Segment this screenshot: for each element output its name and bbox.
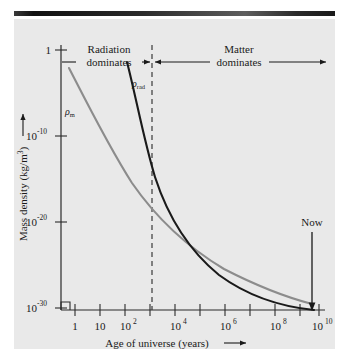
x-tick-label-10: 10 <box>95 320 107 332</box>
x-tick-exp-1e2: 2 <box>133 317 137 326</box>
radiation-dominates-line1: Radiation <box>88 43 131 55</box>
x-tick-exp-1e4: 4 <box>183 317 187 326</box>
x-tick-label-1e2: 10 <box>120 320 132 332</box>
annotation-radiation-dominates: Radiation dominates <box>62 43 150 68</box>
curve-label-matter: ρm <box>64 106 75 118</box>
arrow-left-icon <box>155 59 161 64</box>
arrow-right-icon <box>240 340 246 345</box>
rho-m-subscript: m <box>70 111 75 118</box>
now-label: Now <box>301 216 322 228</box>
arrow-right-icon <box>144 59 150 64</box>
y-tick-label-1e-30: 10 <box>26 302 38 314</box>
x-axis-title: Age of universe (years) <box>105 337 209 349</box>
axis-break-notch-icon <box>61 302 70 310</box>
radiation-dominates-line2: dominates <box>86 56 131 68</box>
y-axis-tick-labels: 1 10 -10 10 -20 10 -30 <box>26 44 51 314</box>
svg-text:Mass density (kg/m3): Mass density (kg/m3) <box>16 147 30 242</box>
curve-radiation-density <box>127 62 314 310</box>
svg-text:ρrad: ρrad <box>131 78 146 90</box>
x-tick-exp-1e10: 10 <box>325 317 333 326</box>
y-tick-exp-1e-20: -20 <box>37 213 47 222</box>
x-tick-exp-1e6: 6 <box>233 317 237 326</box>
y-axis-title-close: ) <box>17 147 30 151</box>
x-tick-label-1e4: 10 <box>170 320 182 332</box>
x-axis-title-group: Age of universe (years) <box>105 337 246 349</box>
x-tick-label-1e6: 10 <box>220 320 232 332</box>
rho-rad-subscript: rad <box>137 83 146 90</box>
curve-matter-density <box>69 68 312 304</box>
y-tick-label-1: 1 <box>46 44 52 56</box>
arrow-up-icon <box>20 114 25 120</box>
x-axis-tick-labels: 1 10 10 2 10 4 10 6 10 8 10 10 <box>72 317 333 332</box>
matter-dominates-line2: dominates <box>216 56 261 68</box>
y-axis-title: Mass density (kg/m <box>17 154 30 241</box>
x-tick-exp-1e8: 8 <box>283 317 287 326</box>
figure-panel: 1 10 -10 10 -20 10 -30 1 10 10 <box>14 19 335 349</box>
annotation-now-marker: Now <box>301 216 322 311</box>
annotation-matter-dominates: Matter dominates <box>155 43 326 68</box>
y-tick-exp-1e-30: -30 <box>37 299 47 308</box>
cosmology-density-chart: 1 10 -10 10 -20 10 -30 1 10 10 <box>14 19 335 349</box>
curve-label-radiation: ρrad <box>131 78 146 90</box>
arrow-right-icon <box>320 59 326 64</box>
y-tick-label-1e-10: 10 <box>26 130 38 142</box>
matter-dominates-line1: Matter <box>224 43 254 55</box>
y-tick-exp-1e-10: -10 <box>37 127 47 136</box>
top-rule-bar <box>14 11 335 16</box>
svg-text:ρm: ρm <box>64 106 75 118</box>
x-tick-label-1e10: 10 <box>312 320 324 332</box>
x-tick-label-1: 1 <box>72 320 78 332</box>
x-tick-label-1e8: 10 <box>270 320 282 332</box>
axis-lines <box>61 45 325 310</box>
